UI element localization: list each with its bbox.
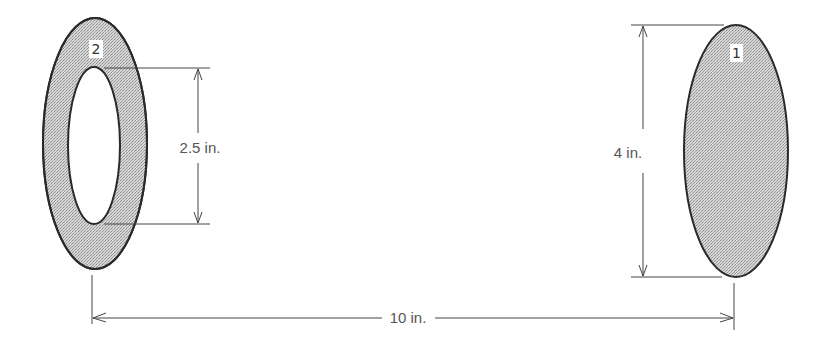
object-1-disk: 1 <box>684 25 788 277</box>
object-1-label: 1 <box>732 45 741 61</box>
object-2-ring: 2 <box>43 18 147 269</box>
separation-label: 10 in. <box>390 309 427 326</box>
ring-inner-hole <box>68 67 120 224</box>
outer-height-label: 4 in. <box>614 144 642 161</box>
disk-ellipse <box>684 25 788 277</box>
diagram-canvas: 2 1 2.5 in. 4 in. 10 in. <box>0 0 829 348</box>
object-2-label: 2 <box>92 41 101 57</box>
inner-height-label: 2.5 in. <box>180 139 221 156</box>
